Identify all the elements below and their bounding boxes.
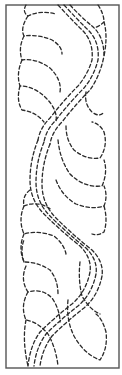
stitch-right-loop-2 (66, 122, 105, 158)
stitch-lines-top (18, 5, 106, 144)
stitch-right-loop-3 (58, 140, 106, 186)
stitch-lines-middle (21, 122, 106, 294)
stitch-ribbon-1 (38, 5, 92, 140)
stitch-left-loop-3 (21, 234, 58, 294)
stitch-left-edge-bottom (24, 320, 28, 366)
stitch-loop-2 (20, 36, 60, 92)
stitch-right-loop-1 (86, 92, 104, 115)
stitch-ribbon-2 (44, 5, 98, 142)
quilting-pattern-canvas (0, 0, 122, 375)
stitch-top-right-hook (94, 5, 104, 28)
stitch-top-right-edge (104, 22, 106, 56)
stitch-right-edge-mid (92, 206, 106, 235)
stitch-ribbon-6 (42, 144, 102, 276)
stitch-loop-1 (23, 16, 62, 54)
stitch-left-loop-4 (23, 266, 60, 322)
stitch-ribbon-9 (40, 276, 102, 366)
stitch-right-loop-4 (56, 180, 106, 208)
stitch-loop-4 (18, 86, 44, 122)
stitch-top-arc-1 (24, 5, 56, 16)
stitch-left-loop-5 (23, 292, 58, 366)
quilting-pattern-svg (0, 0, 122, 375)
